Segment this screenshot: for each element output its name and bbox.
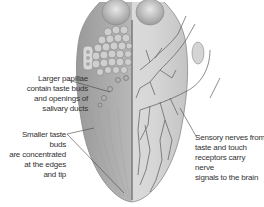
label-line: signals to the brain xyxy=(195,173,264,183)
label-line: contain taste buds xyxy=(6,84,88,94)
label-sensory-nerves: Sensory nerves from taste and touch rece… xyxy=(195,133,264,183)
label-line: and tip xyxy=(6,170,66,180)
tongue-diagram: Larger papillae contain taste buds and o… xyxy=(0,0,264,207)
label-larger-papillae: Larger papillae contain taste buds and o… xyxy=(6,74,88,114)
label-line: salivary ducts xyxy=(6,104,88,114)
label-line: receptors carry nerve xyxy=(195,153,264,173)
label-line: at the edges xyxy=(6,160,66,170)
label-line: Smaller taste buds xyxy=(6,130,66,150)
label-line: and openings of xyxy=(6,94,88,104)
tongue-body xyxy=(76,2,187,202)
label-line: taste and touch xyxy=(195,143,264,153)
label-line: are concentrated xyxy=(6,150,66,160)
label-line: Sensory nerves from xyxy=(195,133,264,143)
label-smaller-taste-buds: Smaller taste buds are concentrated at t… xyxy=(6,130,66,180)
label-line: Larger papillae xyxy=(6,74,88,84)
